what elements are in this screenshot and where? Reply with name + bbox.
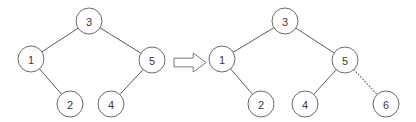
node-label: 1: [219, 54, 225, 66]
node-label: 6: [383, 99, 389, 111]
left-tree-edges: [40, 28, 144, 95]
tree-edge-5-6-dotted: [354, 70, 377, 95]
tree-edge-3-1: [233, 28, 274, 53]
tree-node-right-5: 5: [332, 47, 358, 73]
tree-node-left-3: 3: [76, 8, 102, 34]
tree-node-left-5: 5: [139, 47, 165, 73]
double-right-arrow-icon: [174, 53, 206, 72]
node-label: 5: [342, 55, 348, 67]
tree-node-left-4: 4: [98, 91, 124, 117]
node-label: 2: [258, 99, 264, 111]
right-tree-nodes: 315246: [209, 8, 399, 117]
tree-edge-3-1: [42, 28, 78, 52]
node-label: 4: [108, 99, 114, 111]
arrow-shape: [174, 53, 206, 72]
tree-edge-1-2: [40, 69, 62, 94]
node-label: 1: [28, 54, 34, 66]
tree-edge-3-5: [296, 28, 334, 53]
binary-tree-diagram: 31524 315246: [0, 0, 416, 122]
tree-edge-5-4: [314, 70, 337, 95]
tree-edge-5-4: [120, 70, 143, 95]
tree-node-right-4: 4: [292, 91, 318, 117]
tree-node-right-3: 3: [272, 8, 298, 34]
tree-node-right-2: 2: [248, 91, 274, 117]
node-label: 2: [67, 99, 73, 111]
node-label: 3: [282, 16, 288, 28]
left-tree-nodes: 31524: [18, 8, 165, 117]
node-label: 4: [302, 99, 308, 111]
node-label: 3: [86, 16, 92, 28]
tree-edge-3-5: [100, 28, 141, 53]
node-label: 5: [149, 55, 155, 67]
tree-node-left-1: 1: [18, 46, 44, 72]
tree-edge-1-2: [231, 69, 253, 94]
tree-node-right-6: 6: [373, 91, 399, 117]
tree-node-left-2: 2: [57, 91, 83, 117]
tree-node-right-1: 1: [209, 46, 235, 72]
